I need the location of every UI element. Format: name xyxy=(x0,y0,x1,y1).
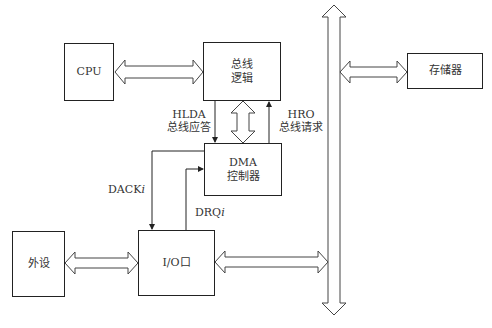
bus-logic-label-2: 逻辑 xyxy=(231,72,253,86)
bus-logic-dma-arrow xyxy=(231,101,255,143)
dma-label-2: 控制器 xyxy=(227,170,260,184)
peripheral-io-arrow xyxy=(65,252,138,274)
hrq-label-1: HRO xyxy=(274,108,328,121)
hlda-label-2: 总线应答 xyxy=(166,121,212,134)
bus-logic-box: 总线 逻辑 xyxy=(203,42,281,101)
io-bus-arrow xyxy=(215,251,328,273)
peripheral-box: 外设 xyxy=(12,231,65,297)
io-port-label: I/O口 xyxy=(162,256,190,270)
drq-label: DRQi xyxy=(195,206,225,219)
bus-logic-label-1: 总线 xyxy=(231,58,253,72)
dma-block-diagram: CPU 总线 逻辑 DMA 控制器 I/O口 外设 存储器 HLDA 总线应答 … xyxy=(0,0,492,328)
hlda-label-1: HLDA xyxy=(166,108,212,121)
cpu-label: CPU xyxy=(77,65,102,79)
memory-box: 存储器 xyxy=(407,53,483,89)
memory-label: 存储器 xyxy=(429,64,462,78)
io-port-box: I/O口 xyxy=(138,230,215,296)
dma-label-1: DMA xyxy=(229,156,257,170)
system-bus-arrow xyxy=(322,5,346,315)
cpu-bus-logic-arrow xyxy=(115,60,203,84)
dack-label: DACKi xyxy=(108,183,145,196)
cpu-box: CPU xyxy=(64,43,114,101)
drq-signal-line xyxy=(186,169,203,230)
hlda-label: HLDA 总线应答 xyxy=(166,108,212,134)
peripheral-label: 外设 xyxy=(28,257,50,271)
hrq-label: HRO 总线请求 xyxy=(274,108,328,134)
dma-controller-box: DMA 控制器 xyxy=(204,143,282,196)
hrq-label-2: 总线请求 xyxy=(274,121,328,134)
bus-memory-arrow xyxy=(340,61,407,83)
